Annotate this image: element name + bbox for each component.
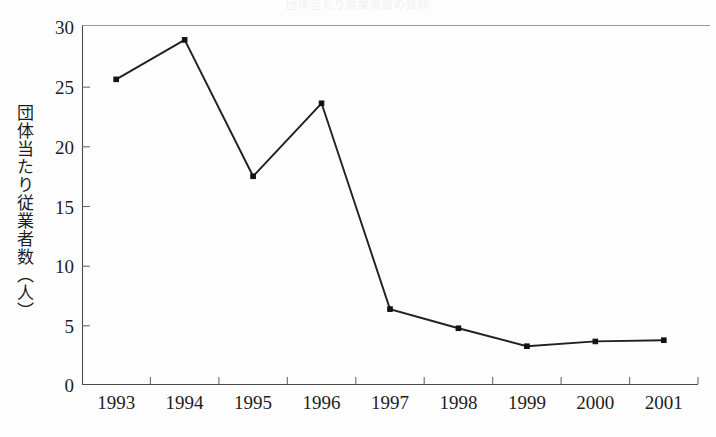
x-tick-label: 1998: [439, 392, 477, 413]
y-tick-label: 0: [65, 375, 75, 396]
data-series-markers: [114, 38, 666, 349]
data-point-marker: [388, 307, 393, 312]
data-point-marker: [456, 326, 461, 331]
x-tick-label: 1994: [166, 392, 205, 413]
data-point-marker: [319, 101, 324, 106]
data-point-marker: [593, 339, 598, 344]
y-tick-label: 5: [65, 316, 75, 337]
y-tick-labels: 0 5 10 15 20 25 30: [55, 17, 74, 397]
data-point-marker: [114, 77, 119, 82]
x-tick-label: 1996: [303, 392, 341, 413]
line-chart-figure: 団体当たり従業者数の推移 団体当たり従業者数（人） 0 5 10 15 20 2…: [0, 0, 716, 437]
x-tick-label: 1995: [234, 392, 272, 413]
y-tick-marks: [82, 87, 90, 326]
x-tick-marks: [150, 377, 698, 384]
y-tick-label: 30: [55, 17, 74, 38]
y-tick-label: 20: [55, 137, 74, 158]
x-tick-label: 2000: [576, 392, 614, 413]
data-point-marker: [525, 344, 530, 349]
plot-area: 0 5 10 15 20 25 30 1993 1994 1995 1996: [0, 0, 716, 437]
data-series-line: [116, 40, 664, 346]
y-tick-label: 10: [55, 256, 74, 277]
data-point-marker: [182, 38, 187, 43]
data-point-marker: [662, 338, 667, 343]
x-tick-labels: 1993 1994 1995 1996 1997 1998 1999 2000 …: [97, 392, 683, 413]
data-point-marker: [251, 174, 256, 179]
y-tick-label: 15: [55, 197, 74, 218]
x-tick-label: 1999: [508, 392, 546, 413]
x-tick-label: 1993: [97, 392, 135, 413]
x-tick-label: 2001: [645, 392, 683, 413]
y-tick-label: 25: [55, 77, 74, 98]
x-tick-label: 1997: [371, 392, 409, 413]
